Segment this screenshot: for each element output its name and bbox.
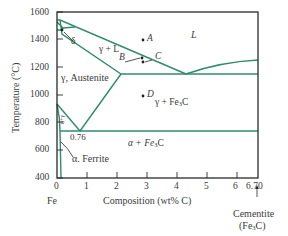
x-tick-2: 2 — [114, 182, 119, 192]
region-gamma-plus-fe3c: γ + Fe3C — [155, 98, 188, 108]
x-tick-5: 5 — [204, 182, 209, 192]
cementite-label: Cementite — [233, 209, 274, 219]
x-axis-label: Composition (wt% C) — [103, 196, 191, 206]
region-alpha-plus-fe3c: α + Fe3C — [128, 139, 164, 149]
region-liquid: L — [191, 30, 197, 40]
eutectoid-composition-label: 0.76 — [70, 133, 86, 142]
point-c-label: C — [155, 52, 161, 62]
point-b — [141, 57, 144, 60]
y-axis-label: Temperature (°C) — [10, 63, 21, 133]
region-alpha-plus-gamma: α+γ — [59, 115, 65, 124]
arrow-c — [145, 60, 152, 62]
x-axis-ticks — [87, 172, 237, 178]
region-delta: δ — [71, 37, 75, 47]
cementite-formula: (Fe3C) — [239, 221, 266, 232]
region-austenite: γ, Austenite — [61, 73, 109, 83]
y-tick-1400: 1400 — [30, 35, 49, 45]
point-d — [142, 95, 145, 98]
y-tick-1000: 1000 — [30, 90, 49, 100]
point-a-label: A — [147, 34, 153, 44]
x-tick-4: 4 — [174, 182, 179, 192]
region-gamma-plus-liquid: γ + L — [99, 45, 119, 55]
liquidus-left — [57, 20, 186, 74]
point-c — [142, 61, 145, 64]
region-ferrite: α. Ferrite — [72, 154, 109, 164]
x-tick-6-70: 6.70 — [246, 182, 263, 192]
arrow-b — [125, 58, 140, 62]
x-tick-1: 1 — [84, 182, 89, 192]
y-tick-1200: 1200 — [30, 63, 49, 73]
y-tick-1600: 1600 — [30, 8, 49, 18]
point-d-label: D — [147, 90, 154, 100]
point-a — [142, 39, 145, 42]
x-tick-6: 6 — [233, 182, 238, 192]
y-tick-800: 800 — [35, 118, 49, 128]
liquidus-right — [186, 60, 258, 74]
fe-label: Fe — [47, 196, 57, 206]
x-tick-3: 3 — [144, 182, 149, 192]
y-tick-400: 400 — [35, 173, 49, 183]
x-tick-0: 0 — [54, 182, 59, 192]
point-delta — [61, 29, 64, 32]
point-b-label: B — [119, 53, 125, 63]
y-tick-600: 600 — [35, 145, 49, 155]
